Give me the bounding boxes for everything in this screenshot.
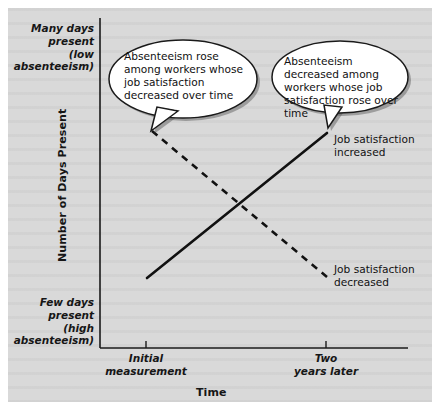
- job-satisfaction-decreased-label: Job satisfaction decreased: [334, 263, 434, 289]
- callout-text-left: Absenteeism rose among workers whose job…: [124, 50, 246, 102]
- x-tick-label-two-years: Two years later: [278, 352, 374, 378]
- y-axis-bottom-label: Few days present (high absenteeism): [6, 296, 94, 347]
- x-axis-title: Time: [196, 386, 227, 399]
- y-axis-top-label: Many days present (low absenteeism): [6, 22, 94, 73]
- job-satisfaction-increased-label: Job satisfaction increased: [334, 133, 434, 159]
- trend-line-satisfaction-increased: [147, 133, 327, 278]
- y-axis-title: Number of Days Present: [56, 109, 69, 262]
- figure-container: Many days present (low absenteeism) Few …: [0, 0, 442, 415]
- callout-text-right: Absenteeism decreased among workers whos…: [284, 55, 400, 120]
- x-tick-label-initial: Initial measurement: [96, 352, 196, 378]
